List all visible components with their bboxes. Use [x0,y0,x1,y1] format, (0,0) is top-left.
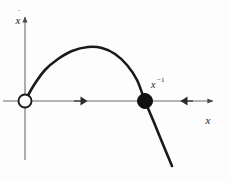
figure-background [0,0,230,182]
x-axis-label: x [205,114,211,126]
fixed-point-label-base: x [150,79,156,90]
phase-diagram-canvas: x ˙ x x −1 [0,0,230,182]
open-circle-unstable-fixed-point [19,95,32,108]
fixed-point-label-superscript: −1 [157,76,165,84]
y-axis-label-dot-accent: ˙ [18,8,21,18]
filled-circle-stable-fixed-point [138,94,153,109]
phase-diagram-figure: x ˙ x x −1 [0,0,230,182]
